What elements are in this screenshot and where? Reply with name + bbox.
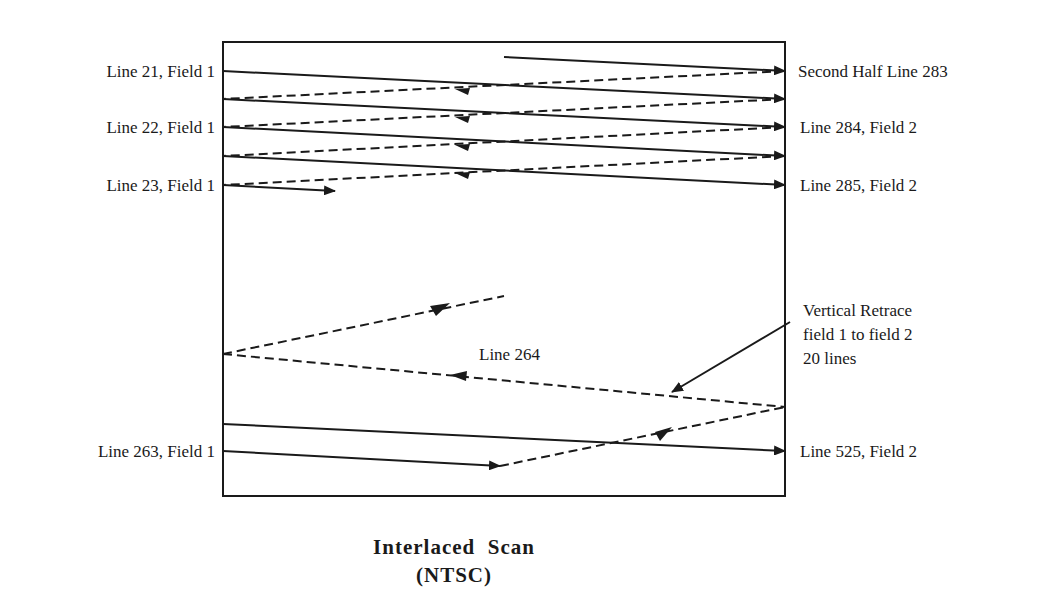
retrace-note-line2: field 1 to field 2	[803, 325, 913, 344]
label-line-285: Line 285, Field 2	[800, 176, 917, 195]
label-line-22: Line 22, Field 1	[106, 118, 215, 137]
diagram-subtitle: (NTSC)	[416, 563, 492, 587]
retrace-note-line1: Vertical Retrace	[803, 301, 912, 320]
retrace-pointer-arrow	[672, 322, 790, 392]
diagram-title: Interlaced Scan	[373, 535, 535, 559]
label-line-284: Line 284, Field 2	[800, 118, 917, 137]
interlaced-scan-diagram: Line 21, Field 1 Line 22, Field 1 Line 2…	[0, 0, 1061, 609]
diagram-canvas: Line 21, Field 1 Line 22, Field 1 Line 2…	[0, 0, 1061, 609]
horizontal-retrace-lines	[223, 71, 785, 185]
label-line-263: Line 263, Field 1	[98, 442, 215, 461]
field-transition-lines	[223, 296, 785, 466]
label-second-half-283: Second Half Line 283	[798, 62, 948, 81]
label-line-525: Line 525, Field 2	[800, 442, 917, 461]
label-line-264: Line 264	[479, 345, 540, 364]
label-line-21: Line 21, Field 1	[106, 62, 215, 81]
label-line-23: Line 23, Field 1	[106, 176, 215, 195]
retrace-note-line3: 20 lines	[803, 349, 856, 368]
